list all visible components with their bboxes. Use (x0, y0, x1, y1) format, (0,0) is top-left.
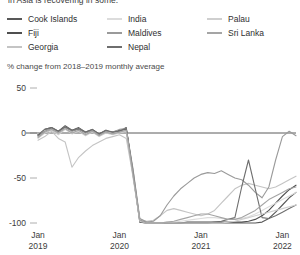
y-tick-label: -50 (14, 173, 27, 183)
series-lines (38, 126, 296, 223)
legend-swatch-icon (7, 46, 22, 49)
x-tick-label: Jan2020 (99, 230, 139, 252)
legend-swatch-icon (7, 18, 22, 21)
x-tick-year: 2020 (99, 241, 139, 252)
y-tick-label: 0 (21, 128, 26, 138)
legend-column-2: Palau Sri Lanka (207, 12, 264, 40)
legend-item-maldives[interactable]: Maldives (107, 26, 162, 40)
legend-label: Maldives (128, 26, 162, 40)
legend-swatch-icon (207, 32, 222, 35)
line-chart-svg: 500-50-100 (0, 80, 300, 230)
x-tick-month: Jan (276, 230, 290, 240)
x-tick-month: Jan (113, 230, 127, 240)
chart-plot-area: 500-50-100 (0, 80, 300, 230)
legend-item-sri-lanka[interactable]: Sri Lanka (207, 26, 264, 40)
legend-label: Cook Islands (28, 12, 77, 26)
chart-legend: Cook Islands Fiji Georgia India Maldives… (0, 12, 300, 54)
x-tick-year: 2022 (262, 241, 300, 252)
x-tick-month: Jan (31, 230, 45, 240)
chart-subtitle: % change from 2018–2019 monthly average (7, 62, 164, 71)
x-tick-label: Jan2021 (181, 230, 221, 252)
series-line-georgia (38, 131, 296, 221)
legend-label: Sri Lanka (228, 26, 264, 40)
legend-item-india[interactable]: India (107, 12, 162, 26)
x-tick-label: Jan2019 (18, 230, 58, 252)
x-axis-labels: Jan2019Jan2020Jan2021Jan2022 (0, 228, 300, 255)
legend-item-cook-islands[interactable]: Cook Islands (7, 12, 77, 26)
legend-swatch-icon (107, 46, 122, 49)
series-line-maldives (38, 127, 296, 222)
legend-item-nepal[interactable]: Nepal (107, 40, 162, 54)
x-tick-year: 2021 (181, 241, 221, 252)
legend-label: Palau (228, 12, 250, 26)
legend-label: Nepal (128, 40, 150, 54)
legend-label: Georgia (28, 40, 58, 54)
legend-label: Fiji (28, 26, 39, 40)
clipped-headline: in Asia is recovering in some. (8, 0, 298, 5)
y-tick-label: 50 (17, 83, 27, 93)
series-line-sri-lanka (38, 129, 296, 224)
x-tick-year: 2019 (18, 241, 58, 252)
legend-swatch-icon (107, 32, 122, 35)
y-tick-label: -100 (9, 218, 26, 228)
x-tick-label: Jan2022 (262, 230, 300, 252)
legend-swatch-icon (107, 18, 122, 21)
y-axis-ticks: 500-50-100 (9, 83, 37, 228)
legend-column-0: Cook Islands Fiji Georgia (7, 12, 77, 54)
legend-swatch-icon (7, 32, 22, 35)
legend-item-georgia[interactable]: Georgia (7, 40, 77, 54)
legend-item-fiji[interactable]: Fiji (7, 26, 77, 40)
legend-swatch-icon (207, 18, 222, 21)
legend-label: India (128, 12, 146, 26)
x-tick-month: Jan (194, 230, 208, 240)
legend-item-palau[interactable]: Palau (207, 12, 264, 26)
legend-column-1: India Maldives Nepal (107, 12, 162, 54)
